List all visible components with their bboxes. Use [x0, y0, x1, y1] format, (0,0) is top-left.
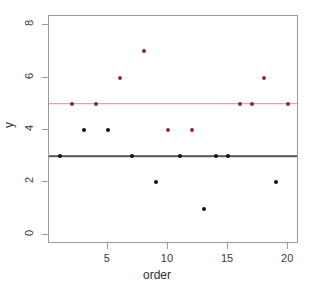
- y-tick-label: 0: [22, 227, 36, 239]
- data-point: [106, 128, 110, 132]
- x-tick-mark: [227, 243, 228, 249]
- y-tick-label-text: 2: [23, 173, 35, 187]
- plot-frame: [48, 15, 298, 243]
- y-tick-label-text: 4: [23, 121, 35, 135]
- y-tick-label-text: 0: [23, 226, 35, 240]
- y-tick-label: 2: [22, 174, 36, 186]
- data-point: [58, 154, 62, 158]
- x-tick-mark: [287, 243, 288, 249]
- data-point: [250, 102, 254, 106]
- x-axis-label: order: [0, 268, 314, 282]
- data-point: [190, 128, 194, 132]
- data-point: [142, 49, 146, 53]
- data-point: [118, 76, 122, 80]
- data-point: [202, 207, 206, 211]
- data-point: [70, 102, 74, 106]
- red-mean-line: [49, 103, 297, 105]
- y-tick-label-text: 6: [23, 69, 35, 83]
- x-tick-mark: [167, 243, 168, 249]
- data-point: [166, 128, 170, 132]
- x-tick-label: 5: [104, 252, 110, 264]
- data-point: [154, 180, 158, 184]
- data-point: [238, 102, 242, 106]
- y-tick-label-text: 8: [23, 16, 35, 30]
- black-mean-line: [49, 155, 297, 157]
- data-point: [82, 128, 86, 132]
- y-axis-label-text: y: [2, 122, 16, 128]
- scatter-plot-figure: 02468 5101520 y order: [0, 0, 314, 293]
- data-point: [226, 154, 230, 158]
- data-point: [286, 102, 290, 106]
- data-point: [178, 154, 182, 158]
- x-tick-label: 15: [221, 252, 233, 264]
- data-point: [94, 102, 98, 106]
- y-axis-label: y: [6, 118, 12, 132]
- data-point: [274, 180, 278, 184]
- y-tick-label: 6: [22, 70, 36, 82]
- x-tick-label: 20: [281, 252, 293, 264]
- data-point: [262, 76, 266, 80]
- x-tick-label: 10: [161, 252, 173, 264]
- x-tick-mark: [107, 243, 108, 249]
- y-tick-label: 8: [22, 17, 36, 29]
- data-point: [214, 154, 218, 158]
- plot-area: [49, 16, 297, 242]
- y-tick-label: 4: [22, 122, 36, 134]
- data-point: [130, 154, 134, 158]
